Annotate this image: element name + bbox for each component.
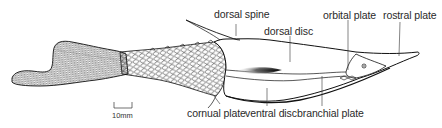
label-orbital-plate: orbital plate (323, 10, 376, 21)
label-ventral-disc: ventral disc (245, 108, 297, 119)
label-dorsal-spine: dorsal spine (214, 9, 269, 20)
scale-bar (114, 102, 132, 108)
label-dorsal-disc: dorsal disc (264, 26, 313, 37)
caudal-fin (12, 41, 128, 86)
label-rostral-plate: rostral plate (383, 10, 437, 21)
scaled-trunk (120, 40, 226, 96)
scale-bar-label: 10mm (112, 112, 133, 120)
label-branchial-plate: branchial plate (297, 108, 364, 119)
label-cornual-plate: cornual plate (187, 108, 246, 119)
